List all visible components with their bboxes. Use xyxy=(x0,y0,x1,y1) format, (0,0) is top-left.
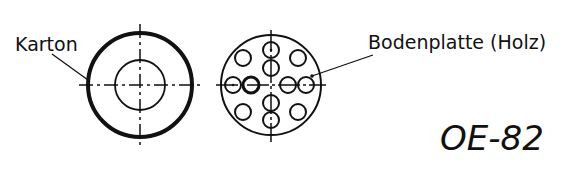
bodenplatte-disk xyxy=(216,30,326,142)
bodenplatte-leader-line xyxy=(312,55,373,76)
hole xyxy=(235,104,251,120)
hole xyxy=(235,50,251,66)
karton-leader-line xyxy=(52,54,88,80)
karton-ring xyxy=(79,24,203,148)
hole xyxy=(290,50,306,66)
center-dot xyxy=(232,84,235,87)
bodenplatte-label: Bodenplatte (Holz) xyxy=(368,31,546,53)
center-dot xyxy=(270,49,273,52)
karton-label: Karton xyxy=(15,33,78,55)
holes xyxy=(225,42,314,128)
hole xyxy=(290,104,306,120)
drawing-code: OE-82 xyxy=(440,118,544,158)
technical-drawing: Karton Bodenplatte (Holz) OE-82 xyxy=(0,0,576,170)
